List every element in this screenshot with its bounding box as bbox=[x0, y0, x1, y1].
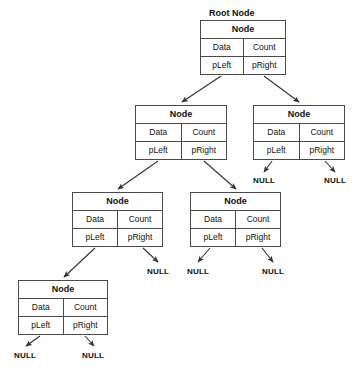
node-data-row: Data Count bbox=[136, 123, 226, 141]
node-pleft-cell: pLeft bbox=[191, 229, 236, 246]
node-data-row: Data Count bbox=[254, 123, 344, 141]
node-pointer-row: pLeft pRight bbox=[201, 56, 285, 74]
node-l2-left[interactable]: Node Data Count pLeft pRight bbox=[72, 192, 163, 247]
node-pleft-cell: pLeft bbox=[19, 317, 64, 334]
node-header-row: Node bbox=[19, 281, 107, 298]
node-pright-cell: pRight bbox=[64, 317, 108, 334]
node-data-row: Data Count bbox=[191, 210, 280, 228]
node-count-cell: Count bbox=[182, 124, 227, 141]
node-pleft-cell: pLeft bbox=[73, 229, 118, 246]
tree-diagram-canvas: Root Node Node Data Count pLeft pRight N… bbox=[0, 0, 356, 377]
node-count-cell: Count bbox=[300, 124, 345, 141]
node-data-row: Data Count bbox=[19, 298, 107, 316]
node-pleft-cell: pLeft bbox=[254, 142, 300, 159]
node-l1-right[interactable]: Node Data Count pLeft pRight bbox=[253, 105, 345, 160]
connector-l2-left-to-l3-left bbox=[64, 248, 95, 277]
node-count-cell: Count bbox=[64, 299, 108, 316]
node-pright-cell: pRight bbox=[182, 142, 227, 159]
node-header-label: Node bbox=[191, 193, 280, 210]
node-data-row: Data Count bbox=[73, 210, 162, 228]
node-pointer-row: pLeft pRight bbox=[73, 228, 162, 246]
node-l2-right[interactable]: Node Data Count pLeft pRight bbox=[190, 192, 281, 247]
node-data-row: Data Count bbox=[201, 38, 285, 56]
node-root[interactable]: Node Data Count pLeft pRight bbox=[200, 20, 286, 75]
node-header-label: Node bbox=[254, 106, 344, 123]
node-data-cell: Data bbox=[254, 124, 300, 141]
node-header-row: Node bbox=[191, 193, 280, 210]
node-l3-left[interactable]: Node Data Count pLeft pRight bbox=[18, 280, 108, 335]
node-header-label: Node bbox=[201, 21, 285, 38]
connector-l2-right-to-null-left bbox=[198, 248, 210, 262]
node-pright-cell: pRight bbox=[118, 229, 162, 246]
node-count-cell: Count bbox=[236, 211, 280, 228]
null-terminator: NULL bbox=[262, 267, 284, 276]
node-data-cell: Data bbox=[19, 299, 64, 316]
node-header-row: Node bbox=[254, 106, 344, 123]
node-pointer-row: pLeft pRight bbox=[254, 141, 344, 159]
null-terminator: NULL bbox=[253, 176, 275, 185]
null-terminator: NULL bbox=[147, 267, 169, 276]
node-header-row: Node bbox=[73, 193, 162, 210]
node-data-cell: Data bbox=[73, 211, 118, 228]
node-header-row: Node bbox=[136, 106, 226, 123]
node-count-cell: Count bbox=[244, 39, 286, 56]
null-terminator: NULL bbox=[14, 351, 36, 360]
connector-l1-right-to-null-left bbox=[264, 161, 272, 172]
null-terminator: NULL bbox=[324, 176, 346, 185]
node-pointer-row: pLeft pRight bbox=[19, 316, 107, 334]
node-data-cell: Data bbox=[136, 124, 182, 141]
node-pointer-row: pLeft pRight bbox=[191, 228, 280, 246]
connector-l3-left-to-null-right bbox=[85, 336, 94, 346]
node-l1-left[interactable]: Node Data Count pLeft pRight bbox=[135, 105, 227, 160]
node-header-label: Node bbox=[136, 106, 226, 123]
null-terminator: NULL bbox=[82, 351, 104, 360]
connector-root-to-l1-right bbox=[264, 76, 299, 102]
node-pleft-cell: pLeft bbox=[201, 57, 244, 74]
connector-l1-right-to-null-right bbox=[325, 161, 335, 172]
node-pright-cell: pRight bbox=[300, 142, 345, 159]
node-header-label: Node bbox=[19, 281, 107, 298]
node-pleft-cell: pLeft bbox=[136, 142, 182, 159]
node-pright-cell: pRight bbox=[236, 229, 280, 246]
connector-l2-right-to-null-right bbox=[262, 248, 273, 262]
root-node-caption: Root Node bbox=[209, 8, 255, 18]
node-count-cell: Count bbox=[118, 211, 162, 228]
node-pointer-row: pLeft pRight bbox=[136, 141, 226, 159]
node-pright-cell: pRight bbox=[244, 57, 286, 74]
connector-l1-left-to-l2-right bbox=[204, 161, 236, 189]
connector-l2-left-to-null-right bbox=[143, 248, 158, 262]
connector-root-to-l1-left bbox=[182, 76, 221, 102]
connector-l1-left-to-l2-left bbox=[118, 161, 158, 189]
node-data-cell: Data bbox=[191, 211, 236, 228]
node-header-label: Node bbox=[73, 193, 162, 210]
null-terminator: NULL bbox=[187, 267, 209, 276]
node-header-row: Node bbox=[201, 21, 285, 38]
node-data-cell: Data bbox=[201, 39, 244, 56]
connector-l3-left-to-null-left bbox=[26, 336, 40, 346]
